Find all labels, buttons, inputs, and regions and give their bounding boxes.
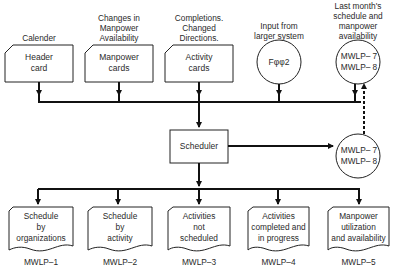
flow-diagram: Calender Changes in Manpower Availabilit… (0, 0, 395, 268)
last-month-caption: Last month's schedule and manpower avail… (318, 1, 395, 41)
report-3-label: Activities not scheduled (168, 211, 230, 244)
header-card-caption: Calender (5, 33, 73, 43)
label-line: activity (88, 233, 152, 244)
caption-line: manpower (318, 21, 395, 31)
caption-line: Last month's (318, 1, 395, 11)
label-line: card (5, 63, 73, 74)
caption-line: Manpower (80, 23, 158, 33)
output-file-label: MWLP– 7 MWLP– 8 (336, 145, 382, 167)
manpower-cards-caption: Changes in Manpower Availability (80, 13, 158, 43)
label-text: Scheduler (180, 141, 218, 151)
label-line: by (88, 222, 152, 233)
caption-line: availability (318, 31, 395, 41)
caption-line: schedule and (318, 11, 395, 21)
label-line: cards (85, 63, 153, 74)
label-line: Header (5, 52, 73, 63)
report-5-code: MWLP–5 (328, 257, 389, 267)
caption-text: Calender (22, 33, 56, 43)
activity-cards-caption: Completions. Changed Directions. (160, 13, 238, 43)
label-text: Fφφ2 (269, 57, 290, 67)
label-line: completed and (248, 222, 309, 233)
report-3-code: MWLP–3 (168, 257, 230, 267)
label-line: MWLP– 7 (336, 51, 382, 62)
label-line: utilization (328, 222, 389, 233)
report-4-label: Activities completed and in progress (248, 211, 309, 244)
label-line: Activities (248, 211, 309, 222)
caption-line: Changed (160, 23, 238, 33)
report-1-code: MWLP–1 (9, 257, 73, 267)
label-line: Schedule (9, 211, 73, 222)
caption-line: Completions. (160, 13, 238, 23)
report-4-code: MWLP–4 (248, 257, 309, 267)
label-line: Schedule (88, 211, 152, 222)
scheduler-label: Scheduler (170, 141, 228, 152)
caption-line: Directions. (160, 33, 238, 43)
header-card-label: Header card (5, 52, 73, 74)
label-line: MWLP– 8 (336, 156, 382, 167)
caption-line: Input from (244, 21, 314, 31)
last-month-label: MWLP– 7 MWLP– 8 (336, 51, 382, 73)
fpp2-caption: Input from larger system (244, 21, 314, 41)
report-5-label: Manpower utilization and availability (328, 211, 389, 244)
fpp2-label: Fφφ2 (257, 57, 301, 68)
label-line: MWLP– 7 (336, 145, 382, 156)
caption-line: Changes in (80, 13, 158, 23)
label-line: in progress (248, 233, 309, 244)
label-line: Activities (168, 211, 230, 222)
label-line: not (168, 222, 230, 233)
report-1-label: Schedule by organizations (9, 211, 73, 244)
label-line: cards (165, 63, 233, 74)
manpower-cards-label: Manpower cards (85, 52, 153, 74)
label-line: Activity (165, 52, 233, 63)
label-line: by (9, 222, 73, 233)
label-line: MWLP– 8 (336, 62, 382, 73)
label-line: organizations (9, 233, 73, 244)
caption-line: larger system (244, 31, 314, 41)
label-line: Manpower (85, 52, 153, 63)
label-line: scheduled (168, 233, 230, 244)
report-2-label: Schedule by activity (88, 211, 152, 244)
activity-cards-label: Activity cards (165, 52, 233, 74)
caption-line: Availability (80, 33, 158, 43)
label-line: Manpower (328, 211, 389, 222)
report-2-code: MWLP–2 (88, 257, 152, 267)
label-line: and availability (328, 233, 389, 244)
